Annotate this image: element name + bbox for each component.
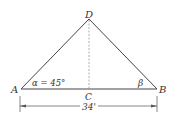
label-A: A: [10, 84, 18, 95]
dim-arrow-left-icon: [20, 105, 26, 108]
triangle-diagram: D A B C α = 45° β 34': [0, 0, 175, 123]
label-alpha: α = 45°: [32, 78, 65, 88]
label-beta: β: [137, 78, 143, 88]
label-B: B: [158, 84, 166, 95]
label-D: D: [84, 9, 93, 20]
side-DB: [89, 19, 157, 89]
dim-arrow-right-icon: [151, 105, 157, 108]
dimension-label: 34': [82, 102, 96, 112]
label-C: C: [85, 92, 92, 102]
